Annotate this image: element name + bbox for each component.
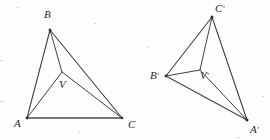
left-inner-spokes: [27, 30, 122, 118]
left-vertex-dots: [26, 29, 124, 120]
vertex-label-A: A: [13, 117, 21, 129]
vertex-label-B: B: [44, 8, 51, 20]
vertex-dot-B: [49, 29, 52, 32]
vertex-dot-Ap: [246, 119, 249, 122]
vertex-dot-Bp: [165, 75, 168, 78]
vertex-label-V: V: [59, 78, 67, 90]
vertex-dot-A: [26, 117, 29, 120]
spoke-V-B: [50, 30, 62, 72]
vertex-dot-C: [121, 117, 124, 120]
vertex-label-Bp: B′: [150, 69, 160, 81]
vertex-label-C: C: [128, 118, 136, 130]
right-triangle-group: A′ B′ C′ V′: [150, 2, 260, 135]
vertex-label-Ap: A′: [249, 123, 260, 135]
vertex-label-Cp: C′: [215, 2, 225, 14]
edge-Bp-Ap: [166, 76, 247, 120]
left-triangle-group: A B C V: [13, 8, 136, 130]
geometry-diagram: A B C V: [0, 0, 270, 140]
diagram-canvas: A B C V: [0, 0, 270, 140]
left-outer-edges: [27, 30, 122, 118]
spoke-Vp-Bp: [166, 70, 200, 76]
vertex-dot-Cp: [211, 16, 214, 19]
right-vertex-labels: A′ B′ C′ V′: [150, 2, 260, 135]
edge-A-B: [27, 30, 50, 118]
vertex-label-Vp: V′: [200, 69, 210, 81]
spoke-V-C: [62, 72, 122, 118]
spoke-V-A: [27, 72, 62, 118]
